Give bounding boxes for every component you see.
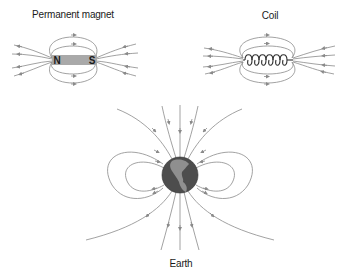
earth-globe bbox=[162, 157, 198, 193]
south-pole-label: S bbox=[89, 55, 96, 66]
north-pole-label: N bbox=[53, 55, 60, 66]
field-diagram: N S bbox=[0, 0, 345, 277]
coil-winding bbox=[243, 55, 293, 66]
coil-field-lines bbox=[203, 35, 335, 84]
magnet-bar: N S bbox=[52, 55, 97, 66]
